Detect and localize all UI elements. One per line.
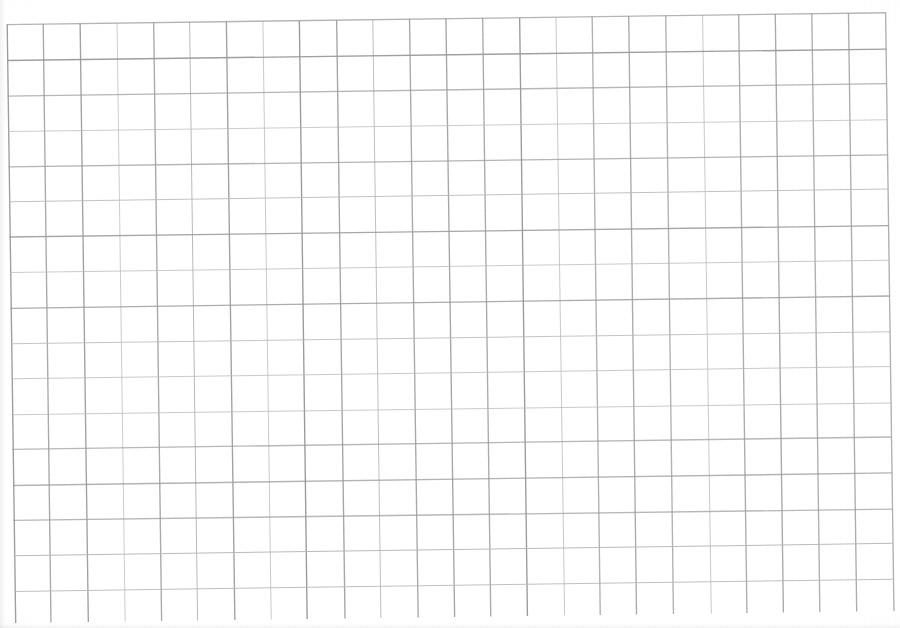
grid-line-vertical xyxy=(373,20,381,623)
grid-line-vertical xyxy=(189,22,197,623)
grid-line-vertical xyxy=(226,22,235,623)
grid-line-vertical xyxy=(117,23,125,623)
page-edge-shadow-left xyxy=(0,0,6,628)
grid-line-vertical xyxy=(848,13,856,616)
grid-line-vertical xyxy=(446,19,455,622)
grid-line-vertical xyxy=(703,15,712,618)
grid-line-vertical xyxy=(263,21,271,623)
page-edge-shadow-bottom xyxy=(0,623,900,628)
grid-line-vertical xyxy=(410,19,419,622)
grid-line-vertical xyxy=(775,14,783,617)
grid-sheet xyxy=(5,5,895,623)
grid-line-vertical xyxy=(153,23,161,623)
grid-line-vertical xyxy=(628,16,637,619)
scanned-grid-paper-page xyxy=(0,0,900,628)
grid-line-vertical xyxy=(556,17,565,620)
grid-line-vertical xyxy=(519,18,528,621)
grid-line-vertical xyxy=(43,24,52,623)
grid-line-vertical xyxy=(483,18,491,621)
grid-line-vertical xyxy=(337,20,345,623)
grid-line-vertical xyxy=(299,21,308,623)
grid-line-layer xyxy=(5,5,895,623)
grid-line-vertical xyxy=(80,24,88,623)
grid-line-vertical xyxy=(739,15,747,618)
grid-svg xyxy=(5,5,895,623)
grid-line-vertical xyxy=(812,14,820,617)
grid-line-vertical xyxy=(592,17,600,620)
grid-line-vertical xyxy=(665,16,674,619)
